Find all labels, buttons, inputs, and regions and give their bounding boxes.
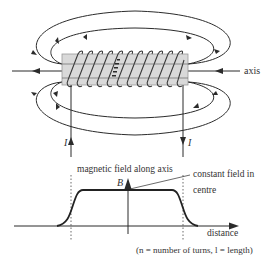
solenoid-diagram: axis I I magnetic field along axis xyxy=(0,0,271,260)
axis-label: axis xyxy=(244,65,260,76)
current-label-left: I xyxy=(63,137,68,148)
solenoid-core xyxy=(62,54,188,85)
current-down-arrow-icon xyxy=(180,137,186,145)
annotation-line-2: centre xyxy=(193,185,216,195)
current-label-right: I xyxy=(187,137,192,148)
current-up-arrow-icon xyxy=(68,137,74,145)
y-axis-label: B xyxy=(117,177,123,188)
y-axis-arrow-icon xyxy=(125,178,132,189)
annotation-leader xyxy=(130,175,190,189)
field-lines-bottom xyxy=(36,82,230,135)
graph-title: magnetic field along axis xyxy=(77,164,173,174)
annotation-line-1: constant field in xyxy=(193,169,254,179)
current-leads xyxy=(71,85,183,157)
x-axis-label: distance xyxy=(207,228,238,238)
footnote: (n = number of turns, l = length) xyxy=(136,245,253,255)
